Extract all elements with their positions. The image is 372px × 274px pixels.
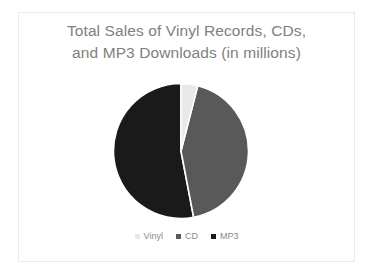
chart-title-line-1: Total Sales of Vinyl Records, CDs, xyxy=(18,20,355,42)
legend-swatch-cd-icon xyxy=(176,234,181,239)
chart-title-line-2: and MP3 Downloads (in millions) xyxy=(18,42,355,64)
legend-swatch-mp3-icon xyxy=(211,234,216,239)
pie-chart-plot-area xyxy=(113,83,249,219)
legend-label-mp3: MP3 xyxy=(220,231,239,242)
chart-title: Total Sales of Vinyl Records, CDs, and M… xyxy=(18,20,355,64)
chart-legend: Vinyl CD MP3 xyxy=(18,231,355,242)
pie-chart-svg xyxy=(113,83,249,219)
legend-swatch-vinyl-icon xyxy=(135,234,140,239)
legend-item-cd[interactable]: CD xyxy=(176,231,198,242)
pie-slices-group xyxy=(113,84,248,219)
legend-item-vinyl[interactable]: Vinyl xyxy=(135,231,163,242)
slide-canvas: Total Sales of Vinyl Records, CDs, and M… xyxy=(0,0,372,274)
legend-item-mp3[interactable]: MP3 xyxy=(211,231,239,242)
legend-label-vinyl: Vinyl xyxy=(144,231,163,242)
legend-label-cd: CD xyxy=(185,231,198,242)
